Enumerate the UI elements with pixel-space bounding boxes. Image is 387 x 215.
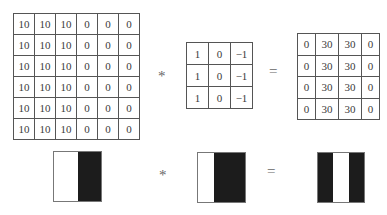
equals-operator-top: = [269,63,277,80]
matrix-cell: 0 [298,55,316,77]
matrix-cell: 0 [119,119,140,140]
black-band [229,153,245,202]
matrix-cell: 10 [14,56,35,77]
matrix-cell: 0 [298,34,316,56]
matrix-cell: 10 [56,98,77,119]
matrix-cell: 10 [56,14,77,35]
matrix-cell: 0 [119,77,140,98]
input-image-white-black [53,151,102,202]
equals-operator-bottom: = [267,163,275,180]
output-matrix: 030300030300030300030300 [297,33,380,120]
matrix-row: 101010000 [14,14,140,35]
matrix-cell: 0 [362,34,380,56]
matrix-row: 101010000 [14,56,140,77]
matrix-row: 101010000 [14,35,140,56]
matrix-row: 10−1 [187,65,253,87]
input-matrix: 1010100001010100001010100001010100001010… [13,13,140,140]
matrix-cell: 0 [98,56,119,77]
matrix-cell: 10 [56,119,77,140]
black-band [318,153,333,202]
matrix-cell: −1 [231,87,253,109]
matrix-row: 030300 [298,98,380,120]
matrix-cell: 30 [316,34,339,56]
matrix-row: 10−1 [187,87,253,109]
matrix-cell: 10 [14,35,35,56]
matrix-cell: 30 [316,55,339,77]
matrix-cell: 0 [119,35,140,56]
matrix-cell: 0 [98,77,119,98]
matrix-cell: 0 [77,14,98,35]
white-band [54,152,78,201]
matrix-cell: 0 [77,56,98,77]
matrix-row: 030300 [298,34,380,56]
matrix-cell: 30 [339,98,362,120]
matrix-cell: 30 [339,34,362,56]
matrix-cell: 0 [298,98,316,120]
matrix-cell: 10 [35,14,56,35]
matrix-cell: 30 [316,98,339,120]
convolution-operator-top: * [158,68,166,85]
matrix-cell: 10 [35,119,56,140]
matrix-row: 10−1 [187,43,253,65]
matrix-cell: 0 [119,14,140,35]
matrix-cell: 0 [119,56,140,77]
matrix-cell: 0 [298,77,316,99]
matrix-cell: 0 [77,35,98,56]
kernel-image [197,152,246,203]
black-band [214,153,230,202]
matrix-cell: 0 [98,14,119,35]
matrix-row: 030300 [298,55,380,77]
matrix-row: 101010000 [14,119,140,140]
matrix-cell: 0 [362,98,380,120]
matrix-cell: 30 [339,55,362,77]
matrix-cell: 1 [187,87,209,109]
matrix-cell: 30 [316,77,339,99]
matrix-cell: 0 [77,119,98,140]
matrix-cell: 0 [77,98,98,119]
convolution-operator-bottom: * [159,167,167,184]
matrix-row: 030300 [298,77,380,99]
matrix-cell: 0 [209,65,231,87]
matrix-row: 101010000 [14,77,140,98]
matrix-cell: 10 [14,119,35,140]
matrix-cell: −1 [231,65,253,87]
matrix-cell: 0 [119,98,140,119]
matrix-cell: 10 [35,77,56,98]
matrix-cell: 10 [14,77,35,98]
matrix-cell: 0 [362,55,380,77]
white-band [198,153,214,202]
matrix-cell: 1 [187,65,209,87]
matrix-cell: 30 [339,77,362,99]
black-band [78,152,102,201]
matrix-cell: 10 [35,98,56,119]
matrix-cell: 10 [56,56,77,77]
matrix-cell: 0 [362,77,380,99]
kernel-matrix: 10−110−110−1 [186,42,253,109]
matrix-row: 101010000 [14,98,140,119]
black-band [349,153,364,202]
matrix-cell: 10 [56,77,77,98]
matrix-cell: 0 [98,119,119,140]
matrix-cell: 0 [209,43,231,65]
matrix-cell: −1 [231,43,253,65]
matrix-cell: 0 [77,77,98,98]
output-image-edge [317,152,365,203]
matrix-cell: 0 [209,87,231,109]
white-band [333,153,348,202]
matrix-cell: 10 [35,56,56,77]
matrix-cell: 0 [98,35,119,56]
matrix-cell: 10 [35,35,56,56]
matrix-cell: 1 [187,43,209,65]
matrix-cell: 10 [14,14,35,35]
matrix-cell: 10 [14,98,35,119]
matrix-cell: 0 [98,98,119,119]
matrix-cell: 10 [56,35,77,56]
